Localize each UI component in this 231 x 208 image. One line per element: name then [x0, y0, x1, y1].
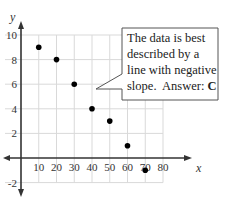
x-tick-label: 80 [158, 161, 170, 173]
callout-line: line with negative [127, 62, 221, 78]
y-axis-label: y [9, 10, 16, 24]
x-tick-label: 30 [69, 161, 81, 173]
y-tick-label: 6 [12, 78, 18, 90]
data-point [107, 118, 113, 124]
data-point [54, 57, 60, 63]
data-point [89, 106, 95, 112]
x-axis-arrow-left-icon [3, 155, 10, 161]
callout-text: The data is best described by a line wit… [127, 30, 221, 94]
data-point [125, 143, 131, 149]
y-tick-label: -2 [8, 177, 17, 189]
callout-line-text: slope. Answer: [127, 79, 208, 93]
answer-letter: C [208, 79, 217, 93]
x-axis-label: x [195, 161, 202, 175]
x-tick-label: 40 [87, 161, 99, 173]
x-axis-arrow-right-icon [184, 155, 192, 161]
y-tick-label: 4 [12, 103, 18, 115]
y-tick-label: 2 [12, 127, 18, 139]
y-tick-label: 8 [12, 54, 18, 66]
x-tick-label: 10 [33, 161, 45, 173]
data-point [71, 81, 77, 87]
callout-line: slope. Answer: C [127, 78, 221, 94]
x-tick-label: 60 [122, 161, 134, 173]
y-tick-label: 10 [6, 29, 18, 41]
data-point [36, 45, 42, 51]
callout-line: described by a [127, 46, 221, 62]
y-axis-arrow-up-icon [18, 21, 24, 29]
y-axis-arrow-down-icon [18, 189, 24, 197]
x-tick-label: 20 [51, 161, 63, 173]
x-tick-label: 50 [104, 161, 116, 173]
callout-line: The data is best [127, 30, 221, 46]
data-point [142, 168, 148, 174]
